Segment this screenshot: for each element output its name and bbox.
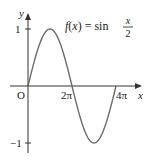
function-label: f(x) = sin bbox=[65, 19, 108, 33]
chart: y x O 1 −1 2π 4π f(x) = sin x 2 bbox=[0, 0, 148, 162]
x-tick-label-2pi: 2π bbox=[61, 89, 73, 101]
origin-label: O bbox=[17, 89, 25, 101]
x-tick-label-4pi: 4π bbox=[116, 89, 128, 101]
y-tick-label-neg1: −1 bbox=[10, 137, 22, 149]
y-axis-arrow-icon bbox=[25, 13, 31, 20]
x-axis-label: x bbox=[137, 89, 143, 101]
fraction-numerator: x bbox=[125, 15, 131, 26]
fraction-denominator: 2 bbox=[126, 28, 131, 39]
y-axis-label: y bbox=[18, 7, 24, 19]
y-tick-label-1: 1 bbox=[15, 23, 21, 35]
